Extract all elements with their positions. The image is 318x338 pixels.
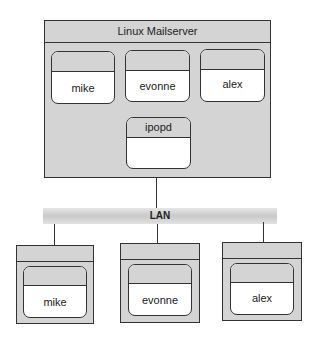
connector-server-lan xyxy=(156,177,157,208)
node-label: mike xyxy=(24,296,86,308)
client-alex-node: alex xyxy=(230,263,294,315)
node-label: alex xyxy=(201,78,264,90)
node-header xyxy=(231,264,293,283)
client-title-bar xyxy=(223,243,301,259)
client-mike: mike xyxy=(16,245,94,324)
node-header xyxy=(129,265,191,284)
node-header xyxy=(52,52,114,72)
server-user-evonne: evonne xyxy=(125,50,190,102)
node-label: mike xyxy=(52,82,114,94)
node-label: evonne xyxy=(129,294,191,306)
ipopd-daemon: ipopd xyxy=(126,117,191,169)
connector-lan-client-evonne xyxy=(157,224,158,243)
connector-lan-client-alex xyxy=(263,222,264,242)
client-evonne-node: evonne xyxy=(128,264,192,316)
client-evonne: evonne xyxy=(120,243,200,323)
client-mike-node: mike xyxy=(23,266,87,318)
server-user-mike: mike xyxy=(51,51,115,104)
node-header xyxy=(24,267,86,286)
client-alex: alex xyxy=(222,242,302,321)
client-title-bar xyxy=(17,246,93,262)
server-user-alex: alex xyxy=(200,49,265,102)
node-header xyxy=(126,51,189,71)
client-title-bar xyxy=(121,244,199,260)
ipopd-label: ipopd xyxy=(127,118,190,138)
connector-lan-client-mike xyxy=(54,224,55,245)
node-header xyxy=(201,50,264,70)
node-label: evonne xyxy=(126,80,189,92)
lan-bus: LAN xyxy=(43,208,277,224)
node-label: alex xyxy=(231,292,293,304)
mailserver-title: Linux Mailserver xyxy=(45,21,270,43)
